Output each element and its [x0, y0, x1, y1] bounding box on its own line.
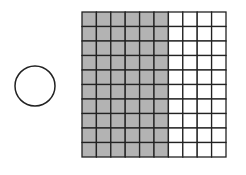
shaded-cell — [140, 128, 154, 143]
empty-cell — [212, 128, 226, 143]
empty-cell — [183, 12, 197, 27]
circle-shape — [15, 66, 55, 106]
empty-cell — [168, 70, 182, 85]
empty-cell — [183, 27, 197, 42]
shaded-cell — [154, 143, 168, 158]
empty-cell — [212, 12, 226, 27]
shaded-cell — [140, 99, 154, 114]
empty-cell — [183, 143, 197, 158]
shaded-cell — [154, 56, 168, 71]
shaded-cell — [96, 99, 110, 114]
shaded-cell — [111, 41, 125, 56]
shaded-cell — [82, 85, 96, 100]
empty-cell — [197, 143, 211, 158]
shaded-cell — [154, 70, 168, 85]
empty-cell — [197, 56, 211, 71]
shaded-cell — [154, 85, 168, 100]
shaded-cell — [111, 99, 125, 114]
empty-cell — [197, 114, 211, 129]
empty-cell — [197, 41, 211, 56]
empty-cell — [212, 99, 226, 114]
shaded-cell — [140, 12, 154, 27]
shaded-cell — [96, 128, 110, 143]
empty-cell — [168, 143, 182, 158]
diagram-canvas — [0, 0, 246, 175]
empty-cell — [212, 56, 226, 71]
shaded-cell — [125, 143, 139, 158]
empty-cell — [197, 12, 211, 27]
shaded-cell — [96, 143, 110, 158]
empty-cell — [183, 56, 197, 71]
shaded-cell — [96, 41, 110, 56]
empty-cell — [212, 143, 226, 158]
empty-cell — [168, 56, 182, 71]
empty-cell — [168, 99, 182, 114]
shaded-cell — [111, 70, 125, 85]
empty-cell — [183, 85, 197, 100]
empty-cell — [197, 128, 211, 143]
empty-cell — [197, 99, 211, 114]
empty-cell — [168, 41, 182, 56]
shaded-cell — [125, 27, 139, 42]
shaded-cell — [140, 143, 154, 158]
shaded-cell — [140, 56, 154, 71]
shaded-cell — [82, 12, 96, 27]
shaded-cell — [125, 56, 139, 71]
empty-cell — [168, 128, 182, 143]
shaded-cell — [125, 114, 139, 129]
shaded-cell — [111, 27, 125, 42]
shaded-cell — [125, 128, 139, 143]
empty-cell — [183, 70, 197, 85]
shaded-cell — [82, 128, 96, 143]
shaded-cell — [125, 70, 139, 85]
shaded-cell — [82, 70, 96, 85]
shaded-cell — [140, 114, 154, 129]
empty-cell — [168, 12, 182, 27]
shaded-cell — [154, 12, 168, 27]
shaded-cell — [96, 114, 110, 129]
empty-cell — [168, 85, 182, 100]
shaded-cell — [111, 85, 125, 100]
shaded-cell — [96, 56, 110, 71]
shaded-cell — [96, 27, 110, 42]
shaded-cell — [125, 85, 139, 100]
empty-cell — [197, 70, 211, 85]
shaded-cell — [82, 99, 96, 114]
empty-cell — [212, 70, 226, 85]
shaded-cell — [140, 27, 154, 42]
empty-cell — [197, 85, 211, 100]
empty-cell — [197, 27, 211, 42]
shaded-cell — [82, 143, 96, 158]
shaded-cell — [154, 114, 168, 129]
shaded-cell — [111, 12, 125, 27]
shaded-cell — [125, 12, 139, 27]
shaded-cell — [96, 12, 110, 27]
empty-cell — [212, 41, 226, 56]
empty-cell — [212, 85, 226, 100]
empty-cell — [168, 27, 182, 42]
empty-cell — [183, 128, 197, 143]
shaded-cell — [154, 41, 168, 56]
empty-cell — [183, 99, 197, 114]
shaded-cell — [125, 41, 139, 56]
empty-cell — [212, 27, 226, 42]
shaded-cell — [96, 85, 110, 100]
shaded-cell — [96, 70, 110, 85]
shaded-cell — [82, 114, 96, 129]
hundred-grid — [82, 12, 226, 157]
shaded-cell — [111, 56, 125, 71]
shaded-cell — [82, 41, 96, 56]
shaded-cell — [82, 56, 96, 71]
shaded-cell — [154, 27, 168, 42]
empty-cell — [212, 114, 226, 129]
empty-cell — [183, 114, 197, 129]
shaded-cell — [111, 143, 125, 158]
shaded-cell — [125, 99, 139, 114]
empty-cell — [183, 41, 197, 56]
shaded-cell — [140, 70, 154, 85]
shaded-cell — [154, 128, 168, 143]
shaded-cell — [82, 27, 96, 42]
shaded-cell — [111, 114, 125, 129]
shaded-cell — [140, 85, 154, 100]
shaded-cell — [111, 128, 125, 143]
